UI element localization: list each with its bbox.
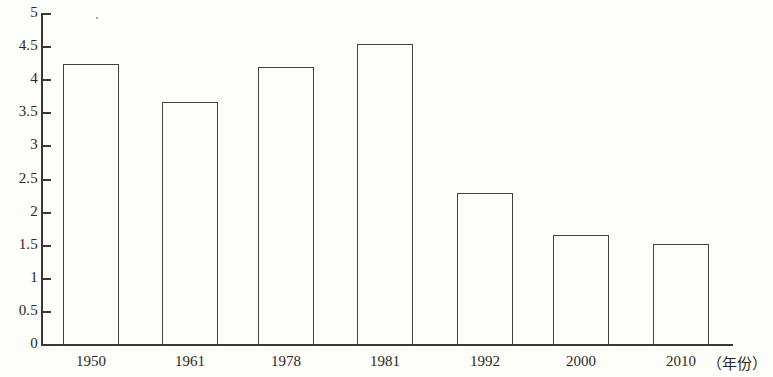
y-axis-tick-label: 2 xyxy=(0,204,38,220)
bar xyxy=(258,67,314,345)
chart-figure: 00.511.522.533.544.55 195019611978198119… xyxy=(0,0,773,377)
y-axis-tick-label: 0.5 xyxy=(0,303,38,319)
y-axis-tick-label-text: 3 xyxy=(2,137,38,152)
x-axis-unit-label: （年份） xyxy=(707,352,767,373)
y-axis-tick xyxy=(43,278,51,280)
y-axis-tick-label: 3 xyxy=(0,137,38,153)
x-axis-tick-label: 1992 xyxy=(445,352,525,371)
y-axis-tick-label-text: 2 xyxy=(2,204,38,219)
y-axis-tick xyxy=(43,46,51,48)
bar xyxy=(162,102,218,345)
y-axis-tick-label-text: 4.5 xyxy=(2,38,38,53)
y-axis-tick xyxy=(43,311,51,313)
y-axis-tick-label: 4 xyxy=(0,71,38,87)
y-axis-tick xyxy=(43,212,51,214)
y-axis-tick-label-text: 0.5 xyxy=(2,303,38,318)
y-axis-tick-label-text: 1 xyxy=(2,270,38,285)
y-axis-tick xyxy=(43,179,51,181)
x-axis-tick-label: 1961 xyxy=(150,352,230,371)
bar xyxy=(457,193,513,345)
y-axis-tick xyxy=(43,245,51,247)
bar xyxy=(653,244,709,345)
y-axis-tick-label: 1 xyxy=(0,270,38,286)
y-axis-tick xyxy=(43,112,51,114)
y-axis-tick-label-text: 0 xyxy=(2,336,38,351)
x-axis-tick-label: 1950 xyxy=(51,352,131,371)
y-axis-tick-label: 5 xyxy=(0,5,38,21)
y-axis-tick-label-text: 3.5 xyxy=(2,104,38,119)
y-axis-tick-label: 0 xyxy=(0,336,38,352)
bar xyxy=(63,64,119,345)
y-axis-tick-label: 2.5 xyxy=(0,171,38,187)
y-axis-tick xyxy=(43,13,51,15)
y-axis-tick xyxy=(43,344,51,346)
x-axis-tick-label: 2000 xyxy=(541,352,621,371)
y-axis-tick-label-text: 5 xyxy=(2,5,38,20)
plot-area: 00.511.522.533.544.55 195019611978198119… xyxy=(0,0,773,377)
scan-speck xyxy=(96,17,98,19)
y-axis-tick-label: 1.5 xyxy=(0,237,38,253)
y-axis-tick-label-text: 2.5 xyxy=(2,171,38,186)
bar xyxy=(357,44,413,345)
y-axis-tick xyxy=(43,145,51,147)
y-axis-tick-label-text: 1.5 xyxy=(2,237,38,252)
y-axis-tick-label-text: 4 xyxy=(2,71,38,86)
y-axis-tick-label: 4.5 xyxy=(0,38,38,54)
y-axis-tick-label: 3.5 xyxy=(0,104,38,120)
x-axis-tick-label: 1981 xyxy=(345,352,425,371)
y-axis-tick xyxy=(43,79,51,81)
bar xyxy=(553,235,609,345)
x-axis-tick-label: 1978 xyxy=(246,352,326,371)
